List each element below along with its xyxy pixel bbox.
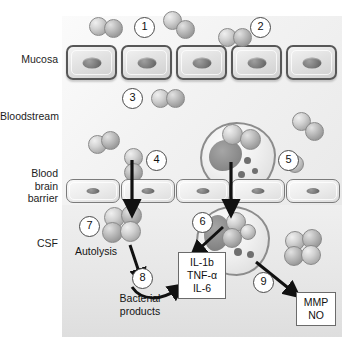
step-badge-9: 9 [253, 272, 274, 293]
cytokine-line: TNF-α [184, 269, 220, 282]
step-badge-7: 7 [79, 216, 100, 237]
step-badge-6: 6 [192, 212, 213, 233]
annotation-autolysis: Autolysis [75, 245, 135, 258]
cytokine-line: IL-1b [184, 256, 220, 269]
step-badge-8: 8 [132, 268, 153, 289]
cytokine-box: IL-1b TNF-α IL-6 [178, 252, 226, 299]
annotation-bacterial-products: Bacterial products [104, 292, 176, 317]
mediator-line: NO [302, 309, 330, 322]
step-badge-2: 2 [250, 17, 271, 38]
step-badge-5: 5 [278, 150, 299, 171]
mediator-box: MMP NO [296, 292, 336, 326]
step-badge-3: 3 [122, 88, 143, 109]
mediator-line: MMP [302, 296, 330, 309]
cytokine-line: IL-6 [184, 282, 220, 295]
diagram-canvas: Mucosa Bloodstream Blood brain barrier C… [0, 0, 342, 337]
step-badge-1: 1 [134, 17, 155, 38]
step-badge-4: 4 [146, 150, 167, 171]
